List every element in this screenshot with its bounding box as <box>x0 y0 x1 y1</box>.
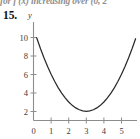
x-ticklabel-5: 5 <box>119 126 123 136</box>
clipped-header-text: for f (x) increasing over (0, 2 <box>0 0 140 6</box>
parabola-curve <box>37 38 136 112</box>
x-ticklabel-group: 0 1 2 3 4 5 <box>31 126 123 136</box>
x-ticklabel-2: 2 <box>67 126 71 136</box>
y-ticklabel-6: 6 <box>24 70 28 80</box>
y-axis-label: y <box>27 10 32 20</box>
y-ticklabel-group: 2 4 6 8 10 <box>20 33 29 117</box>
y-ticklabel-4: 4 <box>24 88 29 98</box>
parabola-figure: y 2 4 6 8 10 <box>0 10 140 139</box>
x-ticklabel-4: 4 <box>102 126 107 136</box>
x-ticklabel-3: 3 <box>84 126 88 136</box>
y-ticklabel-2: 2 <box>24 107 28 117</box>
x-ticklabel-0: 0 <box>31 126 35 136</box>
figure-page: for f (x) increasing over (0, 2 15. y 2 … <box>0 0 140 139</box>
x-ticklabel-1: 1 <box>49 126 53 136</box>
y-ticklabel-10: 10 <box>20 33 29 43</box>
y-ticklabel-8: 8 <box>24 51 28 61</box>
plot-svg: y 2 4 6 8 10 <box>0 10 140 139</box>
